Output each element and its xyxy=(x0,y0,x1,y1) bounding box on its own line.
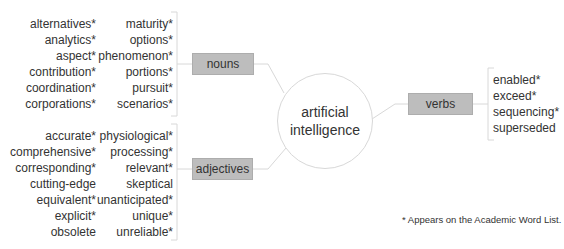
nouns-column-2: maturity* options* phenomenon* portions*… xyxy=(96,16,173,112)
verbs-label: verbs xyxy=(426,97,455,111)
center-node: artificial intelligence xyxy=(277,73,373,169)
word: comprehensive* xyxy=(0,144,96,160)
word: sequencing* xyxy=(493,104,563,120)
word: scenarios* xyxy=(96,96,173,112)
word: corresponding* xyxy=(0,160,96,176)
word: aspect* xyxy=(0,48,96,64)
word: unreliable* xyxy=(96,224,173,240)
nouns-column-1: alternatives* analytics* aspect* contrib… xyxy=(0,16,96,112)
center-line-1: artificial xyxy=(290,103,360,121)
word: enabled* xyxy=(493,72,563,88)
word: cutting-edge xyxy=(0,176,96,192)
word: maturity* xyxy=(96,16,173,32)
word: pursuit* xyxy=(96,80,173,96)
word: phenomenon* xyxy=(96,48,173,64)
center-line-2: intelligence xyxy=(290,121,360,139)
word: contribution* xyxy=(0,64,96,80)
word: obsolete xyxy=(0,224,96,240)
word: options* xyxy=(96,32,173,48)
word: processing* xyxy=(96,144,173,160)
word: alternatives* xyxy=(0,16,96,32)
adjectives-label: adjectives xyxy=(196,162,249,176)
word: coordination* xyxy=(0,80,96,96)
word: unanticipated* xyxy=(96,192,173,208)
word: exceed* xyxy=(493,88,563,104)
footnote: * Appears on the Academic Word List. xyxy=(402,214,561,225)
word: accurate* xyxy=(0,128,96,144)
word: explicit* xyxy=(0,208,96,224)
adjectives-column-2: physiological* processing* relevant* ske… xyxy=(96,128,173,240)
word: relevant* xyxy=(96,160,173,176)
word: corporations* xyxy=(0,96,96,112)
verbs-node: verbs xyxy=(408,93,473,115)
word: equivalent* xyxy=(0,192,96,208)
word: skeptical xyxy=(96,176,173,192)
word: portions* xyxy=(96,64,173,80)
nouns-label: nouns xyxy=(207,57,240,71)
verbs-column: enabled* exceed* sequencing* superseded xyxy=(493,72,563,136)
word: superseded xyxy=(493,120,563,136)
adjectives-node: adjectives xyxy=(192,158,253,180)
word: unique* xyxy=(96,208,173,224)
adjectives-column-1: accurate* comprehensive* corresponding* … xyxy=(0,128,96,240)
word: analytics* xyxy=(0,32,96,48)
nouns-node: nouns xyxy=(192,53,254,75)
word: physiological* xyxy=(96,128,173,144)
